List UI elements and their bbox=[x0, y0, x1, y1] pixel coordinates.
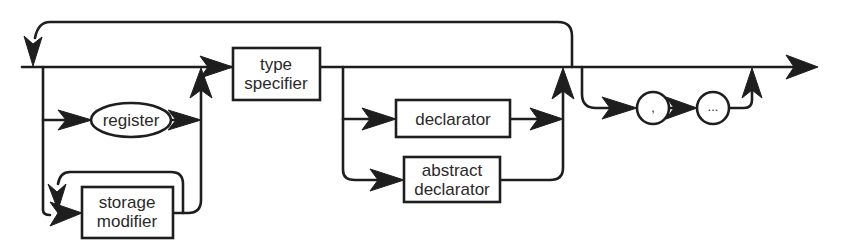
comma-label: , bbox=[651, 100, 655, 115]
abstract-declarator-label-1: abstract bbox=[422, 161, 483, 180]
storage-modifier-label-1: storage bbox=[99, 193, 156, 212]
abstract-declarator-label-2: declarator bbox=[414, 180, 490, 199]
syntax-diagram: register storage modifier type specifier… bbox=[0, 0, 841, 251]
storage-modifier-label-2: modifier bbox=[97, 212, 158, 231]
ellipsis-label: ... bbox=[708, 99, 719, 114]
declarator-label: declarator bbox=[415, 110, 491, 129]
ellipsis-branch bbox=[582, 67, 762, 119]
loop-return-arrow-icon bbox=[24, 36, 42, 66]
type-specifier-label-1: type bbox=[260, 55, 292, 74]
main-line bbox=[22, 55, 818, 79]
register-label: register bbox=[103, 111, 160, 130]
type-specifier-label-2: specifier bbox=[244, 74, 308, 93]
storage-in-arrow-icon bbox=[50, 202, 82, 226]
